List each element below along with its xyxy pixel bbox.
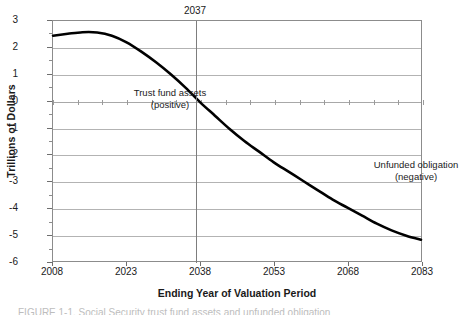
x-axis-title: Ending Year of Valuation Period [52,287,422,299]
y-tick-label-1: 1 [0,69,18,79]
y-tick-mark--4 [47,208,52,209]
y-minor-tick-mark [49,33,52,34]
x-tick-mark-2068 [348,262,349,266]
y-tick-mark--3 [47,181,52,182]
x-tick-mark-2008 [52,262,53,266]
annotation-unfunded-obligation-line1: Unfunded obligation [351,159,463,171]
reference-line-2037 [196,21,197,263]
y-tick-label--4: -4 [0,203,18,213]
zero-line-tick-2083 [423,100,424,105]
y-tick-label--1: -1 [0,123,18,133]
y-tick-mark-0 [47,101,52,102]
x-tick-label-2023: 2023 [103,266,149,277]
y-minor-tick-mark [49,60,52,61]
figure-caption-text: FIGURE 1-1. Social Security trust fund a… [18,307,428,315]
annotation-trust-fund-assets-line1: Trust fund assets [110,87,230,99]
y-minor-tick-mark [49,87,52,88]
x-tick-label-2038: 2038 [177,266,223,277]
y-minor-tick-mark [49,168,52,169]
y-tick-label--2: -2 [0,149,18,159]
y-tick-mark-3 [47,20,52,21]
y-tick-label--3: -3 [0,176,18,186]
figure-caption-clipped: FIGURE 1-1. Social Security trust fund a… [18,307,428,315]
y-minor-tick-mark [49,249,52,250]
data-series-svg [53,21,421,261]
x-tick-mark-2023 [126,262,127,266]
x-tick-label-2083: 2083 [399,266,445,277]
reference-line-label-2037: 2037 [165,5,225,16]
x-tick-mark-2038 [200,262,201,266]
x-tick-label-2053: 2053 [251,266,297,277]
annotation-unfunded-obligation: Unfunded obligation (negative) [351,159,463,183]
x-tick-label-2008: 2008 [29,266,75,277]
y-tick-label--5: -5 [0,230,18,240]
y-tick-label-2: 2 [0,42,18,52]
y-tick-mark--5 [47,235,52,236]
x-tick-label-2068: 2068 [325,266,371,277]
y-tick-mark--1 [47,128,52,129]
plot-area: Trust fund assets (positive) Unfunded ob… [52,20,422,262]
y-tick-label-3: 3 [0,15,18,25]
y-minor-tick-mark [49,114,52,115]
y-tick-label--6: -6 [0,257,18,267]
y-tick-mark-2 [47,47,52,48]
y-tick-mark--2 [47,154,52,155]
annotation-trust-fund-assets: Trust fund assets (positive) [110,87,230,111]
y-tick-mark-1 [47,74,52,75]
x-tick-mark-2053 [274,262,275,266]
series-line-trust-fund [53,32,421,240]
annotation-unfunded-obligation-line2: (negative) [351,171,463,183]
y-minor-tick-mark [49,222,52,223]
y-minor-tick-mark [49,141,52,142]
x-tick-mark-2083 [422,262,423,266]
y-tick-label-0: 0 [0,96,18,106]
y-minor-tick-mark [49,195,52,196]
annotation-trust-fund-assets-line2: (positive) [110,99,230,111]
